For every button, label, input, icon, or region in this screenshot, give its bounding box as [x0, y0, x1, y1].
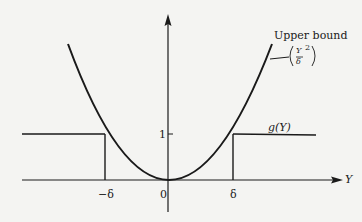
g-right-level: [233, 134, 316, 135]
x-axis-label: Y: [345, 174, 352, 185]
diagram: Upper bound Y δ 2 g(Y) 1 0 −δ δ Y: [0, 0, 362, 222]
formula-exponent: 2: [305, 44, 310, 52]
delta-label: δ: [230, 189, 237, 200]
neg-delta-label: −δ: [98, 189, 114, 200]
y-tick-label-1: 1: [159, 129, 166, 140]
formula-left-paren: [290, 46, 293, 66]
formula-right-paren: [312, 46, 315, 66]
upper-bound-leader: [270, 57, 289, 59]
origin-label: 0: [160, 189, 167, 200]
upper-bound-label: Upper bound: [274, 30, 348, 41]
upper-bound-parabola: [68, 44, 272, 180]
g-label: g(Y): [268, 122, 291, 133]
formula-numerator: Y: [296, 47, 301, 55]
formula-denominator: δ: [296, 58, 301, 66]
